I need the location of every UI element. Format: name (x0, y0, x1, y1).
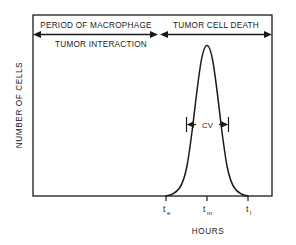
tick-label-te: t e (163, 204, 171, 216)
y-axis-title: NUMBER OF CELLS (15, 62, 24, 148)
arrow-head-left (33, 31, 41, 38)
arrow-head-left (160, 31, 168, 38)
right-span-arrow (160, 31, 272, 38)
tick-label-tl: t l (246, 204, 251, 216)
left-span-arrow (33, 31, 158, 38)
left-span-label-line2: TUMOR INTERACTION (55, 40, 147, 49)
cv-arrow-head-left (187, 121, 194, 127)
tick-label-tm-subscript: m (207, 209, 212, 216)
cv-label: CV (202, 121, 214, 130)
left-span-label-line1: PERIOD OF MACROPHAGE (40, 21, 152, 30)
tick-label-tl-subscript: l (250, 209, 251, 216)
tick-label-tl-base: t (246, 204, 249, 214)
tick-label-te-base: t (163, 204, 166, 214)
tick-label-te-subscript: e (167, 209, 171, 216)
arrow-head-right (150, 31, 158, 38)
tick-label-tm-base: t (203, 204, 206, 214)
x-axis-ticks (166, 196, 248, 201)
tick-label-tm: t m (203, 204, 212, 216)
gaussian-cell-death-chart: PERIOD OF MACROPHAGE TUMOR INTERACTION T… (0, 0, 296, 245)
x-axis-title: HOURS (192, 227, 225, 236)
arrow-head-right (264, 31, 272, 38)
figure-container: PERIOD OF MACROPHAGE TUMOR INTERACTION T… (0, 0, 296, 245)
right-span-label: TUMOR CELL DEATH (173, 21, 259, 30)
cv-arrow-head-right (221, 121, 228, 127)
